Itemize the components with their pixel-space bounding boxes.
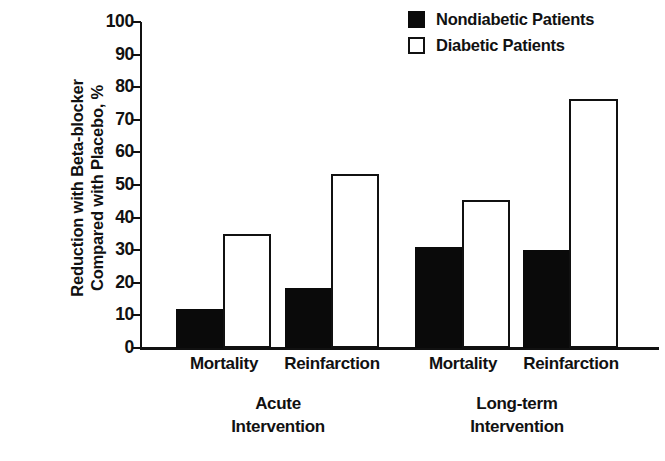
y-axis-tick-labels: 1009080706050403020100 — [88, 0, 134, 461]
group-label-line-2: Intervention — [188, 415, 368, 438]
bar — [285, 288, 331, 348]
legend-item: Diabetic Patients — [408, 34, 594, 57]
bar — [415, 247, 462, 348]
bar-chart: Reduction with Beta-blocker Compared wit… — [0, 0, 665, 461]
y-tick-label-20: 20 — [88, 273, 134, 291]
y-tick-label-30: 30 — [88, 240, 134, 258]
y-tick-label-0: 0 — [88, 338, 134, 356]
bar — [223, 234, 271, 348]
legend: Nondiabetic PatientsDiabetic Patients — [408, 8, 594, 57]
y-tick-label-60: 60 — [88, 142, 134, 160]
y-tick-label-90: 90 — [88, 45, 134, 63]
y-tick-label-100: 100 — [88, 12, 134, 30]
group-label-line-1: Acute — [188, 392, 368, 415]
category-label: Reinfarction — [262, 354, 402, 374]
group-label-line-2: Intervention — [427, 415, 607, 438]
y-tick-label-10: 10 — [88, 305, 134, 323]
y-tick-label-50: 50 — [88, 175, 134, 193]
legend-swatch-filled-icon — [408, 11, 425, 28]
y-tick-label-40: 40 — [88, 208, 134, 226]
bar — [331, 174, 379, 348]
plot-area — [140, 22, 659, 348]
group-label: AcuteIntervention — [188, 392, 368, 438]
category-label: Reinfarction — [501, 354, 641, 374]
bar — [462, 200, 510, 348]
y-axis-title-line-1: Reduction with Beta-blocker — [67, 79, 87, 296]
y-tick-label-70: 70 — [88, 110, 134, 128]
legend-label: Nondiabetic Patients — [436, 10, 594, 29]
bar — [569, 99, 618, 348]
legend-swatch-open-icon — [408, 37, 425, 54]
legend-label: Diabetic Patients — [436, 36, 565, 55]
y-tick-label-80: 80 — [88, 77, 134, 95]
group-label: Long-termIntervention — [427, 392, 607, 438]
bar — [523, 250, 569, 348]
legend-item: Nondiabetic Patients — [408, 8, 594, 31]
group-label-line-1: Long-term — [427, 392, 607, 415]
bar — [176, 309, 223, 348]
